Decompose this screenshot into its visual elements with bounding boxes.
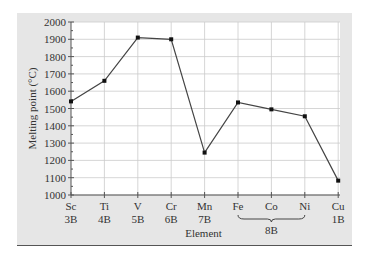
x-tick-label-element: Co bbox=[265, 200, 278, 212]
group-bracket bbox=[238, 215, 305, 222]
group-bracket-label: 8B bbox=[265, 224, 278, 236]
x-tick-label-element: Sc bbox=[66, 200, 77, 212]
y-tick-label: 1800 bbox=[44, 51, 67, 63]
x-axis-title: Element bbox=[185, 227, 222, 239]
y-tick-label: 1100 bbox=[44, 172, 66, 184]
x-tick-label-group: 5B bbox=[131, 213, 144, 225]
x-tick-label-element: Mn bbox=[197, 200, 213, 212]
x-tick-label-group: 6B bbox=[165, 213, 178, 225]
y-tick-label: 1500 bbox=[44, 103, 67, 115]
data-point-ti bbox=[102, 79, 106, 83]
data-point-cu bbox=[336, 179, 340, 183]
x-tick-label-element: V bbox=[134, 200, 142, 212]
x-tick-label-group: 7B bbox=[198, 213, 211, 225]
x-tick-label-element: Ni bbox=[299, 200, 310, 212]
y-tick-label: 1200 bbox=[44, 154, 67, 166]
y-tick-label: 1000 bbox=[44, 189, 67, 201]
y-tick-label: 1900 bbox=[44, 33, 67, 45]
x-tick-label-group: 1B bbox=[332, 213, 345, 225]
data-point-sc bbox=[69, 99, 73, 103]
x-tick-label-group: 3B bbox=[65, 213, 78, 225]
melting-point-chart: 1000110012001300140015001600170018001900… bbox=[0, 0, 368, 255]
data-point-co bbox=[269, 107, 273, 111]
y-tick-label: 1400 bbox=[44, 120, 67, 132]
y-tick-label: 1300 bbox=[44, 137, 67, 149]
y-axis-title: Melting point (°C) bbox=[26, 67, 39, 149]
data-point-mn bbox=[203, 151, 207, 155]
x-tick-label-element: Cr bbox=[166, 200, 177, 212]
x-tick-label-group: 4B bbox=[98, 213, 111, 225]
data-point-ni bbox=[303, 114, 307, 118]
y-tick-label: 1700 bbox=[44, 68, 67, 80]
data-point-v bbox=[136, 36, 140, 40]
x-tick-label-element: Fe bbox=[233, 200, 244, 212]
x-tick-label-element: Ti bbox=[100, 200, 109, 212]
x-tick-label-element: Cu bbox=[332, 200, 345, 212]
y-tick-label: 1600 bbox=[44, 85, 67, 97]
data-point-fe bbox=[236, 100, 240, 104]
data-point-cr bbox=[169, 37, 173, 41]
y-tick-label: 2000 bbox=[44, 16, 67, 28]
